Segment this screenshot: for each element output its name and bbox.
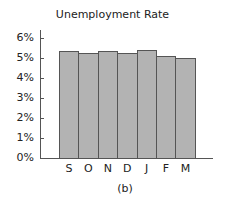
bar-O [78,53,98,159]
bar-F [156,56,176,159]
y-tick-label: 2% [2,112,34,124]
x-tick-label: F [156,162,176,175]
bar-J [137,50,157,159]
x-tick-label: O [78,162,98,175]
bar-S [59,51,79,159]
x-tick-label: D [117,162,137,175]
x-tick-label: J [137,162,157,175]
x-tick-label: N [98,162,118,175]
y-tick-label: 4% [2,72,34,84]
bar-D [117,53,137,159]
y-tick [40,118,44,119]
bar-M [175,58,195,159]
chart-title: Unemployment Rate [0,8,225,21]
x-tick-label: S [59,162,79,175]
x-tick-label: M [175,162,195,175]
y-tick-label: 5% [2,52,34,64]
y-tick-label: 3% [2,92,34,104]
chart-caption: (b) [0,182,225,195]
bar-N [98,51,118,159]
y-tick [40,38,44,39]
y-tick [40,78,44,79]
y-tick [40,98,44,99]
y-tick [40,138,44,139]
y-tick [40,58,44,59]
y-tick-label: 6% [2,32,34,44]
y-tick-label: 0% [2,152,34,164]
y-tick-label: 1% [2,132,34,144]
y-tick [40,158,44,159]
y-axis-line [40,30,41,159]
